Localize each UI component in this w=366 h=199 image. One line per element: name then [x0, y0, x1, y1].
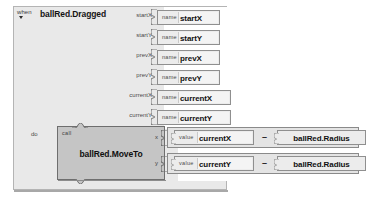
minus-operator-y: – — [262, 160, 267, 167]
plug-left-icon — [171, 133, 176, 144]
value-keyword: value — [179, 160, 194, 166]
plug-top-icon — [72, 123, 88, 128]
call-block-title: ballRed.MoveTo — [58, 149, 164, 159]
getter-block-prevy[interactable]: name prevY — [157, 70, 220, 85]
getter-value: currentY — [180, 114, 212, 123]
getter-keyword: name — [162, 54, 177, 60]
getter-block-currenty-arg[interactable]: value currentY — [174, 156, 254, 171]
argument-label-x: x — [155, 134, 158, 140]
property-value: ballRed.Radius — [278, 160, 365, 169]
getter-block-startx[interactable]: name startX — [157, 10, 220, 25]
call-keyword: call — [62, 130, 71, 136]
parameter-row: currentX — [102, 88, 152, 107]
value-name: currentX — [199, 134, 231, 143]
getter-block-prevx[interactable]: name prevX — [157, 50, 220, 65]
property-block-ballred-radius-y[interactable]: ballRed.Radius — [277, 156, 366, 171]
getter-value: startY — [180, 34, 202, 43]
event-block-title: ballRed.Dragged — [40, 9, 106, 19]
property-block-ballred-radius-x[interactable]: ballRed.Radius — [277, 130, 366, 145]
parameter-label: startX — [136, 12, 152, 18]
getter-block-currenty[interactable]: name currentY — [157, 110, 231, 125]
parameter-row: startY — [108, 28, 152, 47]
argument-label-y: y — [155, 160, 158, 166]
expression-row-x: value currentX – ballRed.Radius — [160, 127, 359, 149]
getter-block-currentx-arg[interactable]: value currentX — [174, 130, 254, 145]
parameter-label: prevY — [136, 72, 152, 78]
parameter-label: currentY — [129, 112, 152, 118]
getter-keyword: name — [162, 114, 177, 120]
call-block-shadow — [58, 180, 166, 181]
parameter-label: prevX — [136, 52, 152, 58]
getter-block-currentx[interactable]: name currentX — [157, 90, 231, 105]
parameter-row: prevY — [108, 68, 152, 87]
getter-keyword: name — [162, 74, 177, 80]
getter-value: prevX — [180, 54, 202, 63]
parameter-row: currentY — [102, 108, 152, 127]
plug-left-icon — [171, 159, 176, 170]
getter-keyword: name — [162, 34, 177, 40]
parameter-label: startY — [136, 32, 152, 38]
parameter-row: prevX — [108, 48, 152, 67]
expression-row-y: value currentY – ballRed.Radius — [160, 153, 359, 175]
getter-block-starty[interactable]: name startY — [157, 30, 220, 45]
value-name: currentY — [199, 160, 231, 169]
triangle-down-icon[interactable] — [19, 16, 23, 19]
property-value: ballRed.Radius — [278, 134, 365, 143]
minus-operator-x: – — [262, 134, 267, 141]
when-keyword-label: when — [17, 9, 32, 16]
getter-value: prevY — [180, 74, 202, 83]
call-block-ballred-moveto[interactable]: call ballRed.MoveTo — [57, 126, 165, 180]
parameter-row: startX — [108, 8, 152, 27]
parameter-label: currentX — [129, 92, 152, 98]
value-keyword: value — [179, 134, 194, 140]
getter-keyword: name — [162, 14, 177, 20]
getter-value: startX — [180, 14, 202, 23]
do-label: do — [31, 131, 38, 137]
getter-value: currentX — [180, 94, 212, 103]
getter-keyword: name — [162, 94, 177, 100]
event-block-shadow — [14, 190, 228, 192]
